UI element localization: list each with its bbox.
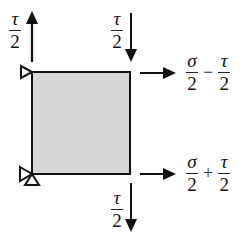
minus-operator: − xyxy=(203,62,213,83)
denominator: 2 xyxy=(187,176,197,194)
sigma-half: σ 2 xyxy=(186,153,198,194)
bottom-shear-label: τ 2 xyxy=(111,189,123,230)
denominator: 2 xyxy=(112,33,122,51)
top-right-shear-arrow-icon xyxy=(125,13,137,62)
denominator: 2 xyxy=(219,75,229,93)
plus-operator: + xyxy=(203,163,213,184)
bottom-normal-arrow-icon xyxy=(140,168,176,180)
sigma-half: σ 2 xyxy=(186,52,198,93)
numerator: τ xyxy=(113,189,122,207)
denominator: 2 xyxy=(10,33,20,51)
top-left-shear-arrow-icon xyxy=(26,11,38,62)
top-normal-stress-label: σ 2 − τ 2 xyxy=(186,52,230,93)
numerator: σ xyxy=(186,52,197,70)
top-left-shear-label: τ 2 xyxy=(9,10,21,51)
numerator: τ xyxy=(113,10,122,28)
stress-element-box xyxy=(32,72,130,174)
numerator: τ xyxy=(220,153,229,171)
top-left-support-icon xyxy=(21,66,32,78)
numerator: σ xyxy=(186,153,197,171)
denominator: 2 xyxy=(187,75,197,93)
denominator: 2 xyxy=(112,212,122,230)
top-normal-arrow-icon xyxy=(140,67,176,79)
tau-half: τ 2 xyxy=(218,153,230,194)
bottom-shear-arrow-icon xyxy=(125,183,137,232)
denominator: 2 xyxy=(219,176,229,194)
stress-element-diagram xyxy=(0,0,250,239)
top-right-shear-label: τ 2 xyxy=(111,10,123,51)
bottom-normal-stress-label: σ 2 + τ 2 xyxy=(186,153,230,194)
numerator: τ xyxy=(220,52,229,70)
tau-half: τ 2 xyxy=(218,52,230,93)
numerator: τ xyxy=(11,10,20,28)
